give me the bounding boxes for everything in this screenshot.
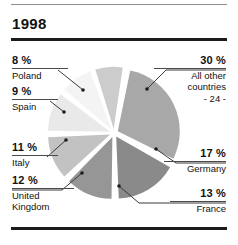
- callout-spain-label: Spain: [12, 101, 58, 113]
- callout-other-percent: 30 %: [154, 55, 226, 67]
- callout-other-rule: [154, 68, 226, 69]
- callout-spain: 9 % Spain: [12, 86, 58, 112]
- callout-uk-percent: 12 %: [12, 175, 74, 187]
- title-underline-rule: [11, 38, 227, 41]
- callout-germany-label: Germany: [164, 163, 226, 175]
- callout-spain-rule: [12, 99, 58, 100]
- callout-germany-rule: [164, 161, 226, 162]
- callout-italy-rule: [12, 155, 58, 156]
- callout-uk-label: United Kingdom: [12, 190, 74, 213]
- callout-poland-label: Poland: [12, 70, 68, 82]
- callout-poland: 8 % Poland: [12, 55, 68, 81]
- bottom-rule: [11, 227, 227, 230]
- callout-all-other-countries: 30 % All other countries - 24 -: [154, 55, 226, 104]
- callout-france-rule: [170, 201, 226, 202]
- callout-italy: 11 % Italy: [12, 142, 58, 168]
- callout-germany: 17 % Germany: [164, 148, 226, 174]
- callout-france: 13 % France: [170, 188, 226, 214]
- callout-france-percent: 13 %: [170, 188, 226, 200]
- callout-germany-percent: 17 %: [164, 148, 226, 160]
- callout-united-kingdom: 12 % United Kingdom: [12, 175, 74, 213]
- callout-italy-label: Italy: [12, 157, 58, 169]
- callout-poland-rule: [12, 68, 68, 69]
- page-title: 1998: [12, 15, 47, 32]
- callout-spain-percent: 9 %: [12, 86, 58, 98]
- callout-poland-percent: 8 %: [12, 55, 68, 67]
- callout-italy-percent: 11 %: [12, 142, 58, 154]
- top-rule: [11, 4, 227, 5]
- chart-figure: 1998: [0, 0, 238, 245]
- callout-other-label: All other countries - 24 -: [154, 70, 226, 105]
- callout-france-label: France: [170, 203, 226, 215]
- callout-uk-rule: [12, 188, 74, 189]
